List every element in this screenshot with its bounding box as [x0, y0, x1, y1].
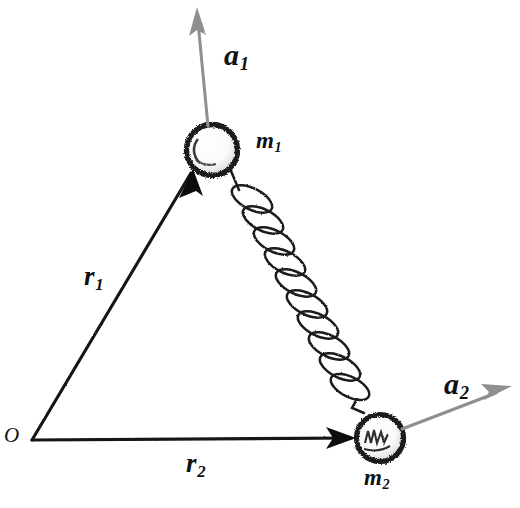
acceleration-vector-1-shaft	[198, 22, 208, 126]
mass-1-label: m1	[256, 129, 282, 154]
mass-1-ball	[186, 124, 238, 176]
position-vector-2	[32, 427, 356, 449]
position-vector-1-label: r1	[84, 263, 104, 293]
origin-label: O	[4, 425, 19, 446]
acceleration-vector-1-label: a1	[224, 40, 249, 74]
position-vector-2-shaft	[32, 438, 351, 440]
position-vector-1	[32, 169, 203, 440]
mass-2-ball	[356, 414, 404, 462]
physics-diagram-canvas: O r1 r2 m1 m2 a1 a2	[0, 0, 520, 508]
spring-loops	[228, 180, 374, 406]
acceleration-vector-1	[189, 7, 208, 126]
spring-coil	[228, 171, 374, 413]
position-vector-2-label: r2	[186, 450, 206, 480]
position-vector-1-shaft	[32, 173, 191, 440]
mass-2-label: m2	[364, 466, 390, 491]
acceleration-vector-2-arrowhead	[481, 384, 512, 400]
diagram-vector-layer	[0, 0, 520, 508]
acceleration-vector-2-label: a2	[444, 369, 469, 403]
